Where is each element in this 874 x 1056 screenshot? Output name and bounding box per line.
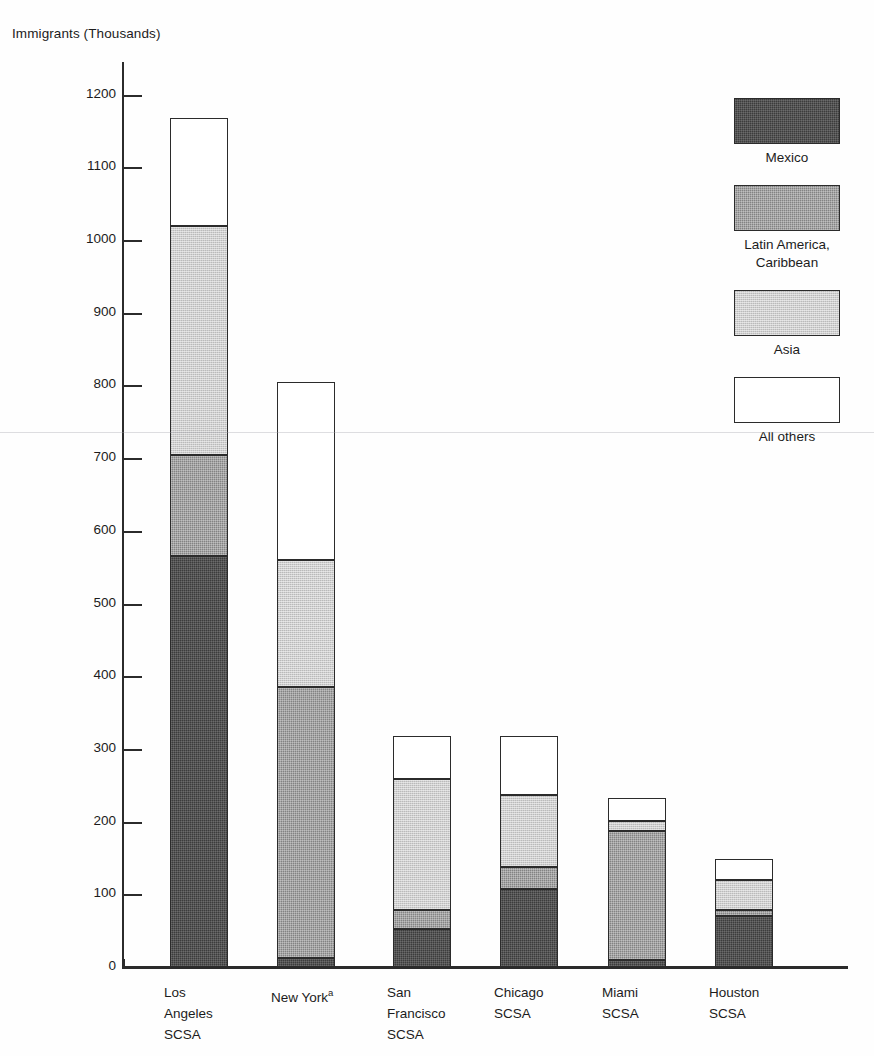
y-tick-900: 900 — [42, 313, 142, 314]
y-tick-label: 1000 — [86, 231, 116, 246]
y-tick-700: 700 — [42, 458, 142, 459]
y-tick-600: 600 — [42, 531, 142, 532]
category-label-line: Angeles — [164, 1003, 213, 1024]
bar-segment-asia[interactable] — [393, 779, 451, 910]
category-label-line: SCSA — [494, 1003, 544, 1024]
bar-segment-other[interactable] — [608, 798, 666, 821]
y-tick-mark — [124, 967, 142, 969]
legend-swatch-other — [734, 377, 840, 423]
bar-segment-other[interactable] — [500, 736, 558, 795]
legend-swatch-latin — [734, 185, 840, 231]
y-tick-mark — [124, 531, 142, 533]
bar-segment-mexico[interactable] — [277, 958, 335, 967]
category-label-line: SCSA — [164, 1024, 213, 1045]
legend-entry-other[interactable]: All others — [712, 377, 862, 446]
bar-segment-other[interactable] — [277, 382, 335, 560]
category-label-1: New Yorka — [271, 982, 333, 1008]
y-tick-mark — [124, 894, 142, 896]
y-tick-mark — [124, 676, 142, 678]
y-tick-label: 300 — [93, 740, 116, 755]
scan-artifact — [0, 432, 874, 433]
y-tick-200: 200 — [42, 822, 142, 823]
bar-segment-asia[interactable] — [500, 795, 558, 868]
bar-chicago-scsa[interactable] — [500, 736, 558, 967]
y-axis-line — [122, 62, 124, 968]
y-tick-label: 400 — [93, 667, 116, 682]
y-tick-label: 200 — [93, 813, 116, 828]
category-label-2: SanFranciscoSCSA — [387, 982, 446, 1045]
y-tick-800: 800 — [42, 385, 142, 386]
bar-segment-other[interactable] — [393, 736, 451, 780]
category-label-line: Los — [164, 982, 213, 1003]
y-axis-title: Immigrants (Thousands) — [12, 26, 161, 41]
y-tick-100: 100 — [42, 894, 142, 895]
category-label-line: Francisco — [387, 1003, 446, 1024]
bar-segment-mexico[interactable] — [170, 556, 228, 967]
category-label-line: SCSA — [387, 1024, 446, 1045]
y-tick-400: 400 — [42, 676, 142, 677]
bar-new-york[interactable] — [277, 382, 335, 967]
bar-segment-asia[interactable] — [277, 560, 335, 687]
category-label-3: ChicagoSCSA — [494, 982, 544, 1024]
legend-entry-mexico[interactable]: Mexico — [712, 98, 862, 167]
y-tick-mark — [124, 822, 142, 824]
y-tick-mark — [124, 240, 142, 242]
bar-segment-mexico[interactable] — [715, 916, 773, 967]
category-label-line: New Yorka — [271, 982, 333, 1008]
y-tick-label: 0 — [108, 958, 116, 973]
bar-segment-asia[interactable] — [170, 226, 228, 455]
bar-segment-mexico[interactable] — [393, 929, 451, 967]
category-label-line: SCSA — [602, 1003, 639, 1024]
legend-label-other: All others — [712, 428, 862, 446]
bar-segment-latin[interactable] — [277, 687, 335, 958]
bar-los-angeles-scsa[interactable] — [170, 118, 228, 967]
y-tick-label: 500 — [93, 595, 116, 610]
bar-segment-asia[interactable] — [715, 880, 773, 911]
category-label-line: Houston — [709, 982, 759, 1003]
legend-entry-latin[interactable]: Latin America, Caribbean — [712, 185, 862, 272]
bar-segment-latin[interactable] — [608, 831, 666, 960]
y-tick-label: 100 — [93, 885, 116, 900]
bar-segment-other[interactable] — [715, 859, 773, 879]
y-tick-mark — [124, 313, 142, 315]
y-tick-500: 500 — [42, 604, 142, 605]
y-tick-300: 300 — [42, 749, 142, 750]
y-tick-mark — [124, 604, 142, 606]
category-label-5: HoustonSCSA — [709, 982, 759, 1024]
bar-segment-latin[interactable] — [500, 867, 558, 888]
category-label-line: Chicago — [494, 982, 544, 1003]
bar-houston-scsa[interactable] — [715, 859, 773, 967]
legend-label-latin: Latin America, Caribbean — [712, 236, 862, 272]
chart-page: Immigrants (Thousands) 01002003004005006… — [0, 0, 874, 1056]
legend-swatch-asia — [734, 290, 840, 336]
y-tick-1000: 1000 — [42, 240, 142, 241]
y-tick-0: 0 — [42, 967, 142, 968]
y-tick-label: 1100 — [87, 158, 116, 173]
bar-segment-latin[interactable] — [715, 910, 773, 916]
y-tick-mark — [124, 167, 142, 169]
bar-segment-asia[interactable] — [608, 821, 666, 831]
y-tick-label: 600 — [93, 522, 116, 537]
bar-miami-scsa[interactable] — [608, 798, 666, 967]
bar-san-francisco-scsa[interactable] — [393, 736, 451, 967]
y-tick-1200: 1200 — [42, 95, 142, 96]
bar-segment-mexico[interactable] — [608, 960, 666, 967]
category-label-line: San — [387, 982, 446, 1003]
bar-segment-mexico[interactable] — [500, 889, 558, 968]
y-tick-label: 1200 — [86, 86, 116, 101]
y-tick-mark — [124, 458, 142, 460]
legend-entry-asia[interactable]: Asia — [712, 290, 862, 359]
legend-label-mexico: Mexico — [712, 149, 862, 167]
legend-swatch-mexico — [734, 98, 840, 144]
footnote-marker: a — [328, 987, 333, 998]
y-tick-label: 700 — [93, 449, 116, 464]
y-tick-label: 800 — [93, 376, 116, 391]
category-label-line: Miami — [602, 982, 639, 1003]
legend-label-asia: Asia — [712, 341, 862, 359]
y-tick-mark — [124, 95, 142, 97]
bar-segment-latin[interactable] — [393, 910, 451, 929]
chart-legend: MexicoLatin America, CaribbeanAsiaAll ot… — [712, 98, 862, 464]
bar-segment-other[interactable] — [170, 118, 228, 226]
bar-segment-latin[interactable] — [170, 455, 228, 557]
y-tick-1100: 1100 — [42, 167, 142, 168]
